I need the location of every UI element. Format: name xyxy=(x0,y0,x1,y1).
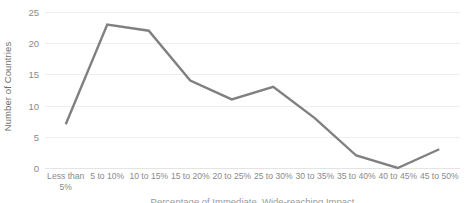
plot-area xyxy=(45,12,460,168)
series-line-svg xyxy=(45,12,460,168)
x-axis-tick-label-line: 5% xyxy=(43,182,89,193)
series-line-number-of-countries xyxy=(66,24,440,168)
x-axis-tick-label: 15 to 20% xyxy=(167,171,213,182)
y-axis-tick-label: 10 xyxy=(28,100,39,111)
x-axis-tick-label: 20 to 25% xyxy=(209,171,255,182)
x-axis-tick-label: 35 to 40% xyxy=(333,171,379,182)
x-axis-tick-label: 45 to 50% xyxy=(416,171,462,182)
y-axis-tick-label: 15 xyxy=(28,69,39,80)
x-axis-tick-labels: Less than5%5 to 10%10 to 15%15 to 20%20 … xyxy=(45,171,460,195)
x-axis-tick-label-line: 20 to 25% xyxy=(209,171,255,182)
x-axis-tick-label-line: 40 to 45% xyxy=(375,171,421,182)
x-axis-tick-label-line: 45 to 50% xyxy=(416,171,462,182)
x-axis-tick-label-line: 30 to 35% xyxy=(292,171,338,182)
y-axis-tick-label: 5 xyxy=(34,131,39,142)
line-chart: Number of Countries 0510152025 Less than… xyxy=(0,0,467,203)
y-axis-title-text: Number of Countries xyxy=(3,41,14,131)
x-axis-tick-label-line: 25 to 30% xyxy=(250,171,296,182)
x-axis-tick-label: 25 to 30% xyxy=(250,171,296,182)
x-axis-tick-label: 30 to 35% xyxy=(292,171,338,182)
y-axis-title: Number of Countries xyxy=(0,0,16,172)
y-axis-tick-label: 0 xyxy=(34,163,39,174)
x-axis-tick-label: 40 to 45% xyxy=(375,171,421,182)
x-axis-title: Percentage of Immediate, Wide-reaching I… xyxy=(45,196,460,203)
x-axis-tick-label: Less than5% xyxy=(43,171,89,192)
x-axis-tick-label: 5 to 10% xyxy=(84,171,130,182)
x-axis-tick-label-line: 15 to 20% xyxy=(167,171,213,182)
y-axis-tick-label: 20 xyxy=(28,38,39,49)
x-axis-tick-label: 10 to 15% xyxy=(126,171,172,182)
x-axis-tick-label-line: 10 to 15% xyxy=(126,171,172,182)
x-axis-tick-label-line: 35 to 40% xyxy=(333,171,379,182)
x-axis-tick-label-line: 5 to 10% xyxy=(84,171,130,182)
y-axis-tick-labels: 0510152025 xyxy=(16,0,42,176)
y-axis-tick-label: 25 xyxy=(28,7,39,18)
x-axis-tick-label-line: Less than xyxy=(43,171,89,182)
